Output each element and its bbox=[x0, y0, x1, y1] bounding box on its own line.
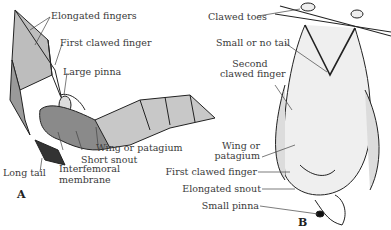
label-elongated-snout: Elongated snout bbox=[170, 184, 261, 194]
bat-illustration bbox=[0, 0, 391, 230]
label-first-clawed-finger-b: First clawed finger bbox=[150, 167, 257, 177]
label-small-pinna: Small pinna bbox=[190, 201, 259, 211]
hanging-bat-drawing bbox=[275, 3, 391, 225]
label-first-clawed-finger-a: First clawed finger bbox=[60, 38, 151, 48]
label-interfemoral-line1: Interfemoral bbox=[59, 164, 120, 174]
panel-letter-a: A bbox=[17, 188, 26, 201]
label-long-tail: Long tail bbox=[3, 168, 46, 178]
panel-letter-b: B bbox=[298, 216, 307, 229]
label-wing-line2: patagium bbox=[200, 151, 260, 161]
label-elongated-fingers: Elongated fingers bbox=[51, 11, 137, 21]
label-large-pinna: Large pinna bbox=[63, 67, 121, 77]
label-clawed-toes: Clawed toes bbox=[208, 12, 267, 22]
label-second-clawed-line2: clawed finger bbox=[220, 69, 280, 79]
label-interfemoral-line2: membrane bbox=[59, 175, 111, 185]
label-wing-or-patagium-a: Wing or patagium bbox=[96, 143, 183, 153]
label-small-or-no-tail: Small or no tail bbox=[216, 38, 290, 48]
